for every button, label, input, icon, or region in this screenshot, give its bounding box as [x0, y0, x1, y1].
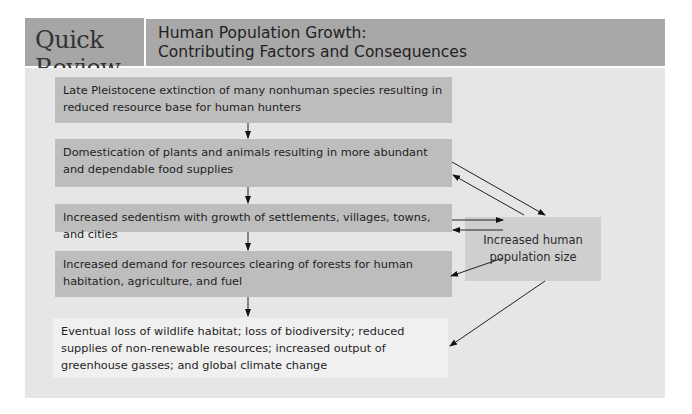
arrow-left-icon	[451, 258, 503, 276]
arrow-right-icon	[452, 162, 545, 215]
arrow-left-icon	[453, 175, 524, 215]
arrow-left-icon	[450, 281, 545, 346]
connector-arrows	[0, 0, 692, 414]
